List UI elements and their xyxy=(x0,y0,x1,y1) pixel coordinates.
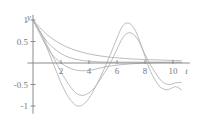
x-tick-label-8: 8 xyxy=(143,66,148,76)
damped-oscillation-chart: 24681010.5-0.5-1yt xyxy=(0,0,205,129)
chart-container: 24681010.5-0.5-1yt xyxy=(0,0,205,129)
x-tick-label-10: 10 xyxy=(169,66,179,76)
x-tick-label-6: 6 xyxy=(115,66,120,76)
curve-curve-5-overdamped-strong xyxy=(33,20,181,61)
x-axis-label: t xyxy=(185,66,188,76)
y-tick-label--1: -1 xyxy=(21,101,29,111)
axis-labels-layer: 24681010.5-0.5-1yt xyxy=(14,12,189,111)
y-tick-label-0.5: 0.5 xyxy=(17,37,29,47)
x-tick-label-2: 2 xyxy=(59,66,64,76)
y-axis-label: y xyxy=(26,12,31,22)
axes-layer xyxy=(27,15,189,114)
y-tick-label--0.5: -0.5 xyxy=(14,80,29,90)
x-tick-label-4: 4 xyxy=(87,66,92,76)
